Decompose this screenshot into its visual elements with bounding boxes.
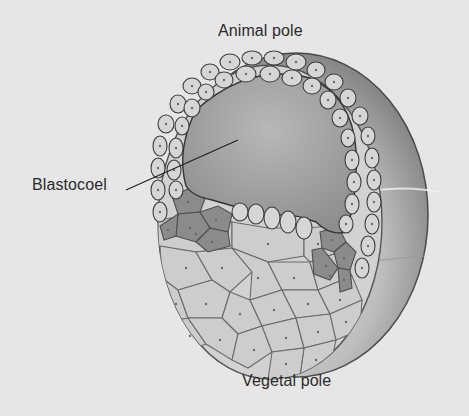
blastula-diagram: Animal pole Blastocoel Vegetal pole: [0, 0, 469, 416]
cut-face: [151, 51, 382, 380]
blastula-illustration: [0, 0, 469, 416]
vegetal-pole-label: Vegetal pole: [242, 372, 331, 390]
animal-pole-label: Animal pole: [218, 22, 303, 40]
blastocoel-label: Blastocoel: [32, 176, 107, 194]
